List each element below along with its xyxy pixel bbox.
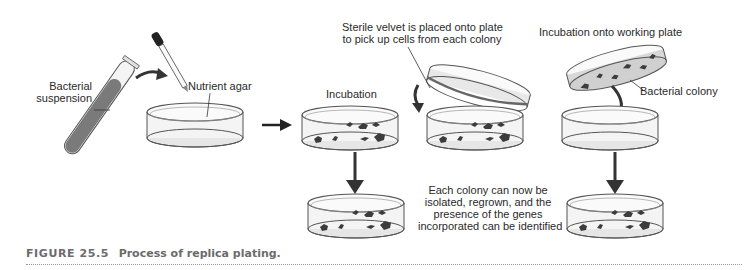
- pipette: [151, 31, 192, 94]
- figure-caption: FIGURE 25.5 Process of replica plating.: [26, 247, 281, 260]
- label-result-description: Each colony can now be isolated, regrown…: [418, 184, 558, 232]
- figure-number: FIGURE 25.5: [26, 247, 109, 260]
- label-incubation: Incubation: [326, 88, 377, 100]
- label-bacterial-colony: Bacterial colony: [640, 85, 718, 97]
- label-bacterial-suspension: Bacterial suspension: [36, 80, 92, 104]
- label-sterile-velvet: Sterile velvet is placed onto plate to p…: [342, 21, 502, 45]
- test-tube: [60, 55, 139, 157]
- caption-divider: [26, 264, 742, 265]
- label-nutrient-agar: Nutrient agar: [188, 80, 252, 92]
- figure-caption-text: Process of replica plating.: [119, 247, 281, 260]
- label-working-plate: Incubation onto working plate: [539, 26, 682, 38]
